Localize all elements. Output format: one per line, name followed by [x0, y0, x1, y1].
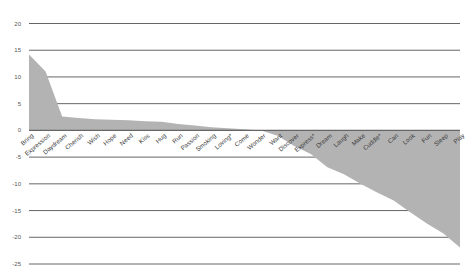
y-tick-label: -5: [16, 154, 22, 160]
x-tick-label: Wish: [86, 131, 101, 146]
x-tick-label: Wonder: [246, 132, 267, 151]
y-tick-label: -25: [12, 261, 21, 267]
y-tick-label: 0: [18, 127, 22, 133]
x-tick-label: Cherish: [64, 131, 85, 150]
y-tick-label: -20: [12, 234, 21, 240]
y-tick-label: 20: [14, 21, 21, 27]
area-chart: 20151050-5-10-15-20-25 BringExpressionDa…: [0, 0, 472, 279]
x-tick-label: Kiss: [137, 132, 150, 145]
area-series: [29, 54, 460, 247]
x-tick-label: Need: [118, 131, 134, 146]
x-tick-label: Hope: [102, 131, 118, 146]
x-tick-label: Hug: [154, 131, 168, 144]
y-tick-label: 10: [14, 74, 21, 80]
y-tick-label: 15: [14, 47, 21, 53]
y-tick-label: -10: [12, 181, 21, 187]
y-tick-label: -15: [12, 208, 21, 214]
y-tick-label: 5: [18, 101, 22, 107]
x-tick-label: Loving*: [213, 131, 234, 150]
